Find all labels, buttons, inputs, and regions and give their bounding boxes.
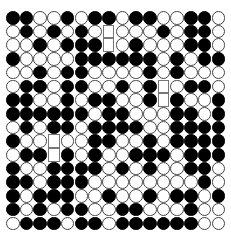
black-circle	[198, 134, 212, 148]
white-circle	[47, 203, 61, 217]
white-circle	[116, 66, 130, 80]
white-circle	[88, 80, 102, 94]
blank-square-cell	[48, 148, 60, 162]
black-circle	[61, 162, 75, 176]
black-circle	[184, 134, 198, 148]
black-circle	[184, 162, 198, 176]
black-circle	[75, 107, 89, 121]
white-circle	[157, 203, 171, 217]
white-circle	[6, 66, 20, 80]
black-circle	[143, 162, 157, 176]
white-circle	[170, 25, 184, 39]
white-circle	[61, 217, 75, 231]
black-circle	[102, 134, 116, 148]
white-circle	[129, 93, 143, 107]
black-circle	[6, 162, 20, 176]
black-circle	[212, 148, 226, 162]
black-circle	[61, 38, 75, 52]
white-circle	[20, 134, 34, 148]
white-circle	[33, 25, 47, 39]
black-circle	[6, 189, 20, 203]
white-circle	[129, 175, 143, 189]
white-circle	[47, 93, 61, 107]
blank-square-cell	[103, 38, 115, 52]
black-circle	[33, 203, 47, 217]
white-circle	[129, 80, 143, 94]
white-circle	[102, 148, 116, 162]
white-circle	[6, 80, 20, 94]
black-circle	[33, 66, 47, 80]
black-circle	[116, 52, 130, 66]
white-circle	[157, 38, 171, 52]
black-circle	[212, 189, 226, 203]
black-circle	[6, 134, 20, 148]
black-circle	[33, 217, 47, 231]
black-circle	[47, 217, 61, 231]
white-circle	[212, 25, 226, 39]
black-circle	[116, 217, 130, 231]
black-circle	[75, 203, 89, 217]
black-circle	[170, 93, 184, 107]
black-circle	[170, 107, 184, 121]
white-circle	[129, 189, 143, 203]
black-circle	[20, 148, 34, 162]
black-circle	[75, 175, 89, 189]
white-circle	[157, 175, 171, 189]
white-circle	[6, 38, 20, 52]
blank-square-cell	[103, 25, 115, 39]
black-circle	[88, 121, 102, 135]
black-circle	[88, 38, 102, 52]
black-circle	[184, 189, 198, 203]
white-circle	[157, 121, 171, 135]
black-circle	[170, 52, 184, 66]
black-circle	[75, 162, 89, 176]
white-circle	[75, 148, 89, 162]
black-circle	[20, 11, 34, 25]
white-circle	[129, 107, 143, 121]
white-circle	[212, 175, 226, 189]
black-circle	[75, 38, 89, 52]
black-circle	[143, 52, 157, 66]
black-circle	[143, 189, 157, 203]
black-circle	[33, 80, 47, 94]
black-circle	[212, 52, 226, 66]
white-circle	[20, 203, 34, 217]
white-circle	[212, 217, 226, 231]
white-circle	[102, 217, 116, 231]
black-circle	[184, 25, 198, 39]
black-circle	[129, 121, 143, 135]
white-circle	[116, 93, 130, 107]
black-circle	[212, 93, 226, 107]
black-circle	[198, 148, 212, 162]
white-circle	[143, 175, 157, 189]
black-circle	[129, 203, 143, 217]
white-circle	[198, 107, 212, 121]
black-circle	[33, 38, 47, 52]
black-circle	[20, 217, 34, 231]
white-circle	[75, 11, 89, 25]
white-circle	[47, 66, 61, 80]
black-circle	[143, 80, 157, 94]
black-circle	[116, 162, 130, 176]
black-circle	[6, 52, 20, 66]
black-circle	[198, 121, 212, 135]
white-circle	[157, 189, 171, 203]
black-circle	[75, 25, 89, 39]
black-circle	[157, 25, 171, 39]
black-circle	[20, 80, 34, 94]
white-circle	[102, 175, 116, 189]
black-circle	[212, 107, 226, 121]
black-circle	[170, 134, 184, 148]
white-circle	[143, 25, 157, 39]
black-circle	[184, 38, 198, 52]
white-circle	[129, 162, 143, 176]
white-circle	[88, 66, 102, 80]
white-circle	[75, 134, 89, 148]
white-circle	[102, 203, 116, 217]
white-circle	[20, 38, 34, 52]
white-circle	[6, 25, 20, 39]
white-circle	[61, 134, 75, 148]
black-circle	[33, 107, 47, 121]
white-circle	[198, 189, 212, 203]
black-circle	[20, 107, 34, 121]
